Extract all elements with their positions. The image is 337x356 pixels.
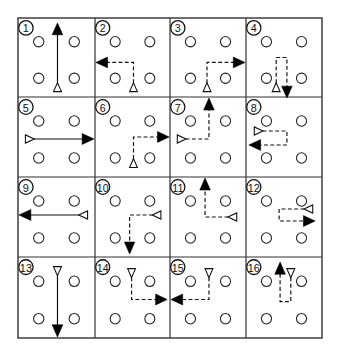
player-circle-icon xyxy=(145,116,155,126)
player-circle-icon xyxy=(261,116,271,126)
player-circle-icon xyxy=(261,37,271,47)
player-circle-icon xyxy=(110,153,120,163)
start-triangle-icon xyxy=(228,213,237,221)
player-circle-icon xyxy=(145,153,155,163)
player-circle-icon xyxy=(220,276,230,287)
arrowhead-icon xyxy=(96,57,108,68)
pattern-cell: 12 xyxy=(247,180,315,244)
player-circle-icon xyxy=(34,233,44,243)
arrowhead-icon xyxy=(200,178,211,190)
arrowhead-icon xyxy=(158,132,170,143)
start-triangle-icon xyxy=(128,269,136,278)
start-triangle-icon xyxy=(25,135,34,143)
player-circle-icon xyxy=(69,153,79,163)
arrowhead-icon xyxy=(171,294,183,305)
pattern-cell: 6 xyxy=(96,100,169,168)
player-circle-icon xyxy=(296,73,306,83)
start-triangle-icon xyxy=(53,267,61,276)
cell-number: 3 xyxy=(175,22,181,34)
cell-number-label: 2 xyxy=(96,21,110,35)
grid-lines xyxy=(18,18,322,338)
cell-number: 5 xyxy=(23,101,29,113)
player-circle-icon xyxy=(69,37,79,47)
player-circle-icon xyxy=(296,313,306,324)
player-circle-icon xyxy=(145,37,155,47)
player-circle-icon xyxy=(34,73,44,83)
cell-number: 8 xyxy=(251,101,257,113)
arrowhead-icon xyxy=(204,98,215,110)
arrowhead-icon xyxy=(275,262,286,274)
player-circle-icon xyxy=(145,233,155,243)
pattern-cell: 5 xyxy=(19,100,94,164)
pattern-cell: 16 xyxy=(247,260,307,324)
start-triangle-icon xyxy=(177,135,186,143)
cell-number: 15 xyxy=(172,262,184,274)
cell-number-label: 8 xyxy=(247,100,261,115)
arrowhead-icon xyxy=(303,216,315,227)
player-circle-icon xyxy=(110,37,120,47)
player-circle-icon xyxy=(220,37,230,47)
cell-number-label: 15 xyxy=(171,260,185,275)
arrowhead-icon xyxy=(52,23,63,35)
start-triangle-icon xyxy=(152,211,161,219)
player-circle-icon xyxy=(69,233,79,243)
cell-number: 11 xyxy=(172,181,183,193)
pattern-cell: 7 xyxy=(171,98,231,163)
dashed-path-line xyxy=(276,58,287,88)
cell-number-label: 5 xyxy=(19,100,33,115)
cell-number: 7 xyxy=(175,101,181,113)
player-circle-icon xyxy=(185,313,195,324)
arrowhead-icon xyxy=(124,242,134,254)
player-circle-icon xyxy=(110,313,120,324)
start-triangle-icon xyxy=(79,211,88,219)
player-circle-icon xyxy=(185,153,195,163)
player-circle-icon xyxy=(34,196,44,206)
pattern-cell: 1 xyxy=(19,21,80,92)
player-circle-icon xyxy=(220,153,230,163)
player-circle-icon xyxy=(110,73,120,83)
player-circle-icon xyxy=(69,73,79,83)
player-circle-icon xyxy=(220,233,230,243)
pattern-cell: 2 xyxy=(96,21,155,92)
player-circle-icon xyxy=(296,153,306,163)
cell-number: 14 xyxy=(97,261,109,273)
player-circle-icon xyxy=(34,313,44,324)
player-circle-icon xyxy=(220,73,230,83)
dashed-path-line xyxy=(260,131,287,145)
cell-number-label: 13 xyxy=(19,260,33,275)
cell-number-label: 3 xyxy=(171,21,185,35)
player-circle-icon xyxy=(220,116,230,126)
player-circle-icon xyxy=(185,116,195,126)
player-circle-icon xyxy=(261,73,271,83)
player-circle-icon xyxy=(185,73,195,83)
player-circle-icon xyxy=(220,313,230,324)
player-circle-icon xyxy=(110,116,120,126)
pattern-cell: 4 xyxy=(247,21,307,98)
player-circle-icon xyxy=(34,276,44,287)
arrowhead-icon xyxy=(233,57,245,68)
pattern-cells: 12345678910111213141516 xyxy=(19,21,315,337)
player-circle-icon xyxy=(261,196,271,206)
cell-number-label: 10 xyxy=(96,180,110,195)
cell-number: 10 xyxy=(97,181,109,193)
player-circle-icon xyxy=(69,276,79,287)
cell-number: 13 xyxy=(20,262,32,274)
arrowhead-icon xyxy=(249,140,261,151)
player-circle-icon xyxy=(69,196,79,206)
player-circle-icon xyxy=(110,196,120,206)
arrowhead-icon xyxy=(82,134,94,145)
player-circle-icon xyxy=(261,153,271,163)
player-circle-icon xyxy=(296,276,306,287)
dashed-path-line xyxy=(280,273,291,301)
cell-number: 6 xyxy=(100,101,106,113)
start-triangle-icon xyxy=(287,269,295,278)
player-circle-icon xyxy=(34,37,44,47)
pattern-cell: 3 xyxy=(171,21,245,92)
arrowhead-icon xyxy=(156,294,168,305)
cell-number-label: 1 xyxy=(19,21,33,35)
player-circle-icon xyxy=(261,276,271,287)
pattern-cell: 9 xyxy=(19,180,88,244)
cell-number: 16 xyxy=(248,262,260,274)
cell-number-label: 16 xyxy=(247,260,261,275)
player-circle-icon xyxy=(145,73,155,83)
